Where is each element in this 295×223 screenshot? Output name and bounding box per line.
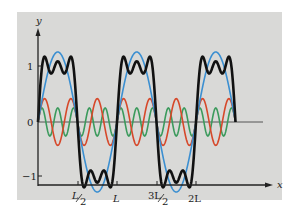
- fourier-chart: y x 1 0 −1 L 2 L 3L 2 2L: [0, 0, 295, 223]
- svg-text:2: 2: [80, 196, 86, 207]
- y-tick-label-0: 0: [27, 117, 33, 128]
- x-tick-label-2L: 2L: [188, 193, 201, 204]
- x-tick-label-half-L: L 2: [71, 190, 86, 207]
- y-tick-label-neg1: −1: [22, 171, 37, 182]
- x-axis-label: x: [277, 179, 283, 190]
- y-axis-arrow-icon: [36, 28, 41, 36]
- x-axis-arrow-icon: [265, 183, 273, 188]
- svg-text:2: 2: [162, 196, 168, 207]
- svg-text:3L: 3L: [148, 190, 161, 201]
- x-tick-label-L: L: [112, 193, 120, 204]
- x-tick-label-3half-L: 3L 2: [148, 190, 168, 207]
- y-tick-label-1: 1: [27, 61, 33, 72]
- y-axis-label: y: [35, 15, 42, 26]
